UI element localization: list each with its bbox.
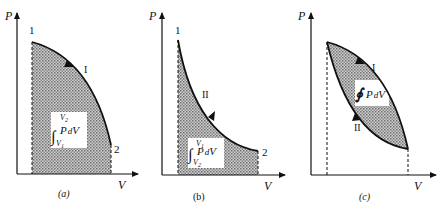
pv-diagram-figure: P V 1 2 I ∫ V2 V1 PdV (a) P V 1 2 II ∫ V… bbox=[0, 0, 444, 207]
panel-caption: (a) bbox=[58, 188, 70, 200]
path-label-lower: II bbox=[354, 122, 361, 133]
path-label: II bbox=[202, 89, 209, 100]
svg-text:PdV: PdV bbox=[196, 145, 217, 157]
path-label: I bbox=[84, 64, 87, 75]
x-axis-label: V bbox=[118, 178, 127, 192]
panel-caption: (b) bbox=[193, 191, 205, 203]
state-1-label: 1 bbox=[29, 24, 35, 36]
path-label-upper: I bbox=[372, 62, 375, 73]
svg-text:PdV: PdV bbox=[59, 124, 80, 136]
panel-caption: (c) bbox=[359, 191, 371, 203]
y-axis-label: P bbox=[148, 9, 157, 23]
state-2-label: 2 bbox=[262, 146, 268, 158]
y-axis-label: P bbox=[4, 9, 13, 23]
x-axis-label: V bbox=[264, 179, 273, 193]
state-2-label: 2 bbox=[114, 143, 120, 155]
svg-text:PdV: PdV bbox=[365, 88, 386, 100]
panel-b: P V 1 2 II ∫ V1 V2 PdV (b) bbox=[148, 9, 285, 203]
panel-c: P V I II ∮ PdV (c) bbox=[297, 9, 436, 203]
state-1-label: 1 bbox=[175, 24, 181, 36]
y-axis-label: P bbox=[297, 9, 306, 23]
panel-a: P V 1 2 I ∫ V2 V1 PdV (a) bbox=[4, 9, 138, 200]
x-axis-label: V bbox=[414, 179, 423, 193]
